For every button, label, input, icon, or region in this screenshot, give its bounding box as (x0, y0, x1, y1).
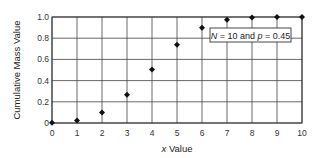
x-axis-ticks: 012345678910 (50, 128, 307, 138)
data-point (224, 17, 230, 23)
x-tick-label: 9 (275, 128, 280, 138)
data-point (299, 14, 305, 20)
data-point (249, 15, 255, 21)
svg-text:N = 10 and p = 0.45: N = 10 and p = 0.45 (211, 31, 291, 41)
y-axis-ticks: 00.20.40.60.81.0 (37, 12, 49, 128)
data-point (99, 109, 105, 115)
y-tick-label: 0.8 (37, 33, 49, 43)
annotation-box: N = 10 and p = 0.45 (210, 28, 291, 42)
x-tick-label: 1 (75, 128, 80, 138)
y-tick-label: 0.2 (37, 97, 49, 107)
data-point (274, 14, 280, 20)
data-point (199, 25, 205, 31)
data-point (149, 67, 155, 73)
cdf-chart: 00.20.40.60.81.0 012345678910 N = 10 and… (0, 0, 317, 158)
x-tick-label: 7 (225, 128, 230, 138)
x-tick-label: 8 (250, 128, 255, 138)
data-point (174, 42, 180, 48)
x-tick-label: 6 (200, 128, 205, 138)
annotation-n-value: = 10 and (217, 31, 257, 41)
y-tick-label: 0.6 (37, 54, 49, 64)
x-tick-label: 10 (297, 128, 307, 138)
y-tick-label: 0 (44, 118, 49, 128)
x-tick-label: 2 (100, 128, 105, 138)
data-point (49, 120, 55, 126)
x-axis-title: x Value (161, 143, 193, 154)
y-axis-title: Cumulative Mass Value (11, 20, 22, 119)
x-tick-label: 5 (175, 128, 180, 138)
y-tick-label: 1.0 (37, 12, 49, 22)
x-tick-label: 4 (150, 128, 155, 138)
annotation-p-value: = 0.45 (263, 31, 291, 41)
y-tick-label: 0.4 (37, 76, 49, 86)
x-tick-label: 0 (50, 128, 55, 138)
data-point (124, 92, 130, 98)
x-tick-label: 3 (125, 128, 130, 138)
